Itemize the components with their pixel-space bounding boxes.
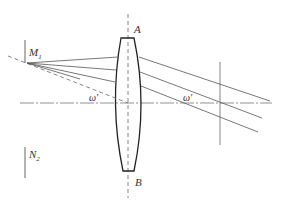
incident-ray-3 <box>27 63 115 82</box>
label-B: B <box>135 176 142 188</box>
label-omega-right: ω' <box>183 92 193 103</box>
chief-ray-dashed <box>8 56 128 103</box>
incident-ray-2 <box>27 63 116 70</box>
label-M1: M1 <box>28 46 42 61</box>
exit-ray-3 <box>141 86 258 132</box>
label-A: A <box>133 23 141 35</box>
lens-diagram: A B M1 N2 ω' ω' <box>0 0 282 209</box>
label-N2-sub: 2 <box>36 155 40 163</box>
exit-ray-2 <box>140 72 262 118</box>
label-N2: N2 <box>28 148 40 163</box>
exit-parallel-rays <box>139 57 270 132</box>
label-omega-left: ω' <box>89 92 99 103</box>
label-M1-sub: 1 <box>38 53 42 61</box>
